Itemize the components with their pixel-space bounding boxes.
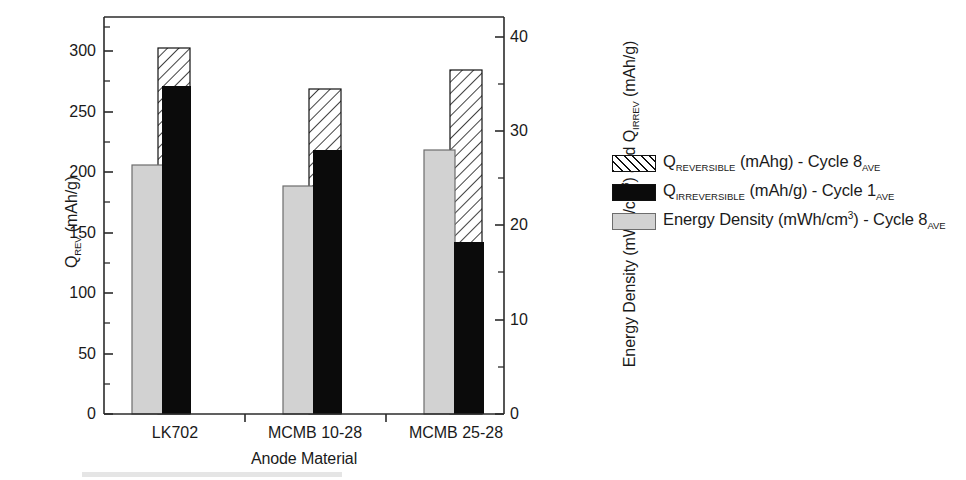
bar-energy-lk702 [132,165,163,414]
y-axis-title-right-sub: IRREV [630,101,641,130]
legend-reversible-q: Q [663,152,676,170]
left-axis-major-ticks [104,51,113,414]
left-tick-label-0: 0 [64,405,96,423]
right-tick-label-30: 30 [510,122,528,140]
hatched-swatch-icon [612,155,656,172]
bar-irreversible-mcmb-10-28 [313,150,342,414]
right-tick-label-0: 0 [510,405,519,423]
right-tick-label-20: 20 [510,216,528,234]
right-tick-label-10: 10 [510,311,528,329]
legend-energy-sup: 3 [848,210,853,221]
bar-energy-mcmb-25-28 [424,150,455,414]
left-tick-label-250: 250 [44,103,96,121]
legend-item-irreversible: QIRREVERSIBLE (mAh/g) - Cycle 1AVE [612,181,964,205]
legend-label-reversible: QREVERSIBLE (mAhg) - Cycle 8AVE [663,152,880,173]
bar-irreversible-mcmb-25-28 [454,242,484,414]
left-tick-label-300: 300 [44,42,96,60]
category-label-mcmb-10-28: MCMB 10-28 [248,424,382,442]
legend-irreversible-rest: (mAh/g) - Cycle 1 [745,181,876,199]
right-axis-major-ticks [495,37,504,414]
bar-irreversible-lk702 [162,86,191,414]
legend-energy-ave: AVE [927,220,945,231]
legend-item-reversible: QREVERSIBLE (mAhg) - Cycle 8AVE [612,152,964,176]
plot-area [0,0,966,480]
legend-irreversible-ave: AVE [876,191,894,202]
right-tick-label-40: 40 [510,28,528,46]
y-axis-title-left-main: Q [63,256,80,268]
legend-irreversible-sub: IRREVERSIBLE [676,191,745,202]
bar-chart-figure: 0 50 100 150 200 250 300 0 10 20 30 40 L… [0,0,966,480]
left-axis-minor-ticks [104,27,110,384]
x-axis-ticks [245,414,386,422]
legend-reversible-ave: AVE [862,162,880,173]
legend-reversible-rest: (mAhg) - Cycle 8 [735,152,862,170]
x-axis-title: Anode Material [204,450,404,468]
chart-legend: QREVERSIBLE (mAhg) - Cycle 8AVE QIRREVER… [612,152,964,239]
category-label-mcmb-25-28: MCMB 25-28 [389,424,523,442]
gray-swatch-icon [612,213,656,230]
legend-reversible-sub: REVERSIBLE [676,162,736,173]
y-axis-title-left-sub: REV [72,236,83,255]
legend-energy-rest: ) - Cycle 8 [853,210,927,228]
bar-energy-mcmb-10-28 [283,186,314,414]
legend-label-energy-density: Energy Density (mWh/cm3) - Cycle 8AVE [663,210,946,231]
y-axis-title-left-rest: (mAh/g) [63,176,80,237]
scan-artifact [82,472,342,477]
legend-irreversible-q: Q [663,181,676,199]
legend-item-energy-density: Energy Density (mWh/cm3) - Cycle 8AVE [612,210,964,234]
legend-label-irreversible: QIRREVERSIBLE (mAh/g) - Cycle 1AVE [663,181,894,202]
legend-energy-main: Energy Density (mWh/cm [663,210,848,228]
y-axis-title-left: QREV (mAh/g) [63,142,81,302]
left-tick-label-50: 50 [54,345,96,363]
category-label-lk702: LK702 [115,424,235,442]
black-swatch-icon [612,184,656,201]
y-axis-title-right-p3: (mAh/g) [621,41,638,102]
